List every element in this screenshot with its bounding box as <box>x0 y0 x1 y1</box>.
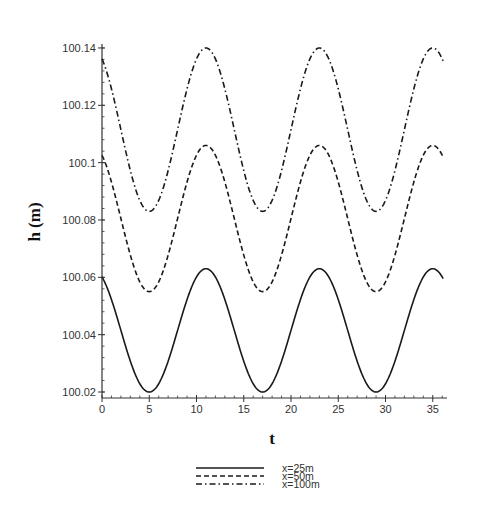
x-tick-label: 20 <box>285 403 297 415</box>
y-tick-label: 100.1 <box>68 157 96 169</box>
y-tick-label: 100.12 <box>62 99 96 111</box>
legend-label: x=100m <box>282 478 320 490</box>
x-tick-label: 25 <box>332 403 344 415</box>
x-axis-title: t <box>269 429 275 448</box>
y-tick-label: 100.08 <box>62 214 96 226</box>
y-tick-label: 100.14 <box>62 42 96 54</box>
series-line-x25m <box>102 269 443 392</box>
y-tick-label: 100.02 <box>62 386 96 398</box>
x-tick-label: 10 <box>190 403 202 415</box>
y-axis-ticks: 100.02100.04100.06100.08100.1100.12100.1… <box>62 42 105 398</box>
y-axis-title: h (m) <box>25 202 44 241</box>
plot-area <box>102 48 443 392</box>
x-tick-label: 35 <box>427 403 439 415</box>
x-tick-label: 5 <box>146 403 152 415</box>
axes <box>102 44 447 398</box>
y-tick-label: 100.06 <box>62 271 96 283</box>
series-line-x50m <box>102 145 443 291</box>
series-line-x100m <box>102 48 443 211</box>
y-tick-label: 100.04 <box>62 329 96 341</box>
x-tick-label: 30 <box>379 403 391 415</box>
x-tick-label: 0 <box>99 403 105 415</box>
x-tick-label: 15 <box>238 403 250 415</box>
chart: 100.02100.04100.06100.08100.1100.12100.1… <box>0 0 477 514</box>
legend: x=25mx=50mx=100m <box>196 462 320 490</box>
